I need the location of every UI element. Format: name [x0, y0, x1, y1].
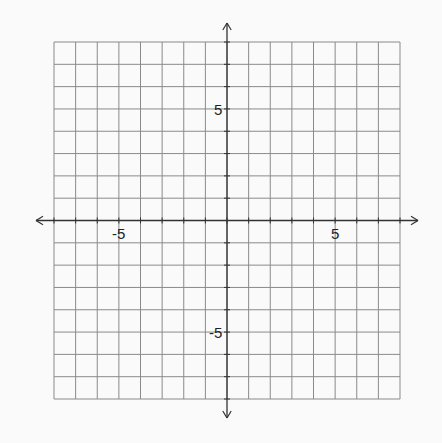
y-axis-label-neg5: -5 [209, 325, 222, 340]
x-axis-label-neg5: -5 [112, 226, 125, 241]
x-axis-label-5: 5 [331, 226, 339, 241]
y-axis-label-5: 5 [214, 102, 222, 117]
axes [36, 23, 418, 418]
coordinate-plane [0, 0, 442, 443]
